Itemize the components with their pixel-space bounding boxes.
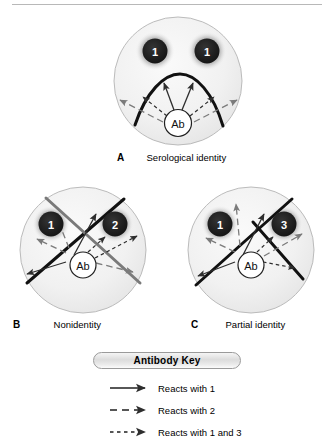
plates-diagram: Ab 1 1 bbox=[0, 0, 334, 345]
panel-b-well-left-label: 1 bbox=[48, 219, 54, 231]
legend-row-reacts-with-1-and-3: Reacts with 1 and 3 bbox=[108, 425, 241, 439]
solid-arrow-icon bbox=[108, 381, 154, 395]
panel-c-letter: C bbox=[191, 319, 198, 330]
antibody-key-title: Antibody Key bbox=[93, 352, 241, 369]
legend-label-reacts-with-1: Reacts with 1 bbox=[158, 383, 215, 394]
panel-b-well-right-label: 2 bbox=[112, 219, 118, 231]
panel-b-caption-text: Nonidentity bbox=[54, 319, 102, 330]
panel-a-well-left-label: 1 bbox=[152, 46, 158, 58]
panel-b-plate: Ab 1 2 bbox=[20, 187, 146, 313]
panel-c-well-left-label: 1 bbox=[217, 219, 223, 231]
legend-label-reacts-with-2: Reacts with 2 bbox=[158, 405, 215, 416]
panel-a-caption-text: Serological identity bbox=[147, 152, 227, 163]
panel-b-letter: B bbox=[13, 319, 20, 330]
legend-row-reacts-with-2: Reacts with 2 bbox=[108, 403, 215, 417]
panel-c-plate: Ab 1 3 bbox=[188, 187, 314, 313]
panel-c-caption-text: Partial identity bbox=[226, 319, 286, 330]
panel-c-well-right-label: 3 bbox=[281, 219, 287, 231]
panel-a-plate: Ab 1 1 bbox=[114, 17, 242, 145]
panel-c-caption: C Partial identity bbox=[191, 319, 285, 331]
immunodiffusion-figure: Ab 1 1 bbox=[0, 0, 334, 442]
panel-c-ab-label: Ab bbox=[244, 260, 257, 272]
panel-a-letter: A bbox=[117, 152, 124, 163]
panel-a-well-right-label: 1 bbox=[204, 46, 210, 58]
legend-row-reacts-with-1: Reacts with 1 bbox=[108, 381, 215, 395]
antibody-key-title-text: Antibody Key bbox=[134, 355, 201, 366]
panel-a-caption: A Serological identity bbox=[117, 152, 226, 164]
top-divider-rule bbox=[12, 4, 322, 5]
panel-b-ab-label: Ab bbox=[76, 260, 89, 272]
legend-label-reacts-with-1-and-3: Reacts with 1 and 3 bbox=[158, 427, 241, 438]
panel-a-ab-label: Ab bbox=[171, 118, 184, 130]
long-dash-arrow-icon bbox=[108, 403, 154, 417]
panel-b-caption: B Nonidentity bbox=[13, 319, 101, 331]
short-dash-arrow-icon bbox=[108, 425, 154, 439]
